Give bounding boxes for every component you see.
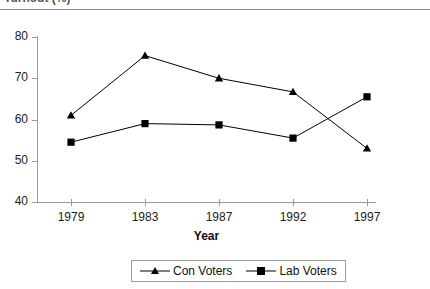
data-point-marker xyxy=(141,120,148,127)
data-point-marker xyxy=(67,111,75,118)
triangle-marker-icon xyxy=(140,265,170,277)
data-point-marker xyxy=(215,121,222,128)
x-axis-line xyxy=(37,202,376,203)
series-con-voters xyxy=(67,51,371,151)
x-tick-mark xyxy=(71,199,72,206)
x-axis-title: Year xyxy=(37,229,376,243)
y-tick-mark xyxy=(32,78,37,79)
legend-item-con-voters[interactable]: Con Voters xyxy=(140,264,232,278)
legend-label: Lab Voters xyxy=(279,264,336,278)
y-tick-mark xyxy=(32,161,37,162)
data-point-marker xyxy=(141,51,149,58)
y-tick-mark xyxy=(32,120,37,121)
series-line xyxy=(71,97,367,142)
data-point-marker xyxy=(67,139,74,146)
square-marker-icon xyxy=(246,265,276,277)
x-tick-label: 1979 xyxy=(41,210,101,224)
series-line xyxy=(71,56,367,149)
y-tick-label: 40 xyxy=(15,194,28,208)
data-point-marker xyxy=(289,135,296,142)
chart-legend: Con Voters Lab Voters xyxy=(131,260,346,282)
x-tick-mark xyxy=(145,199,146,206)
legend-label: Con Voters xyxy=(173,264,232,278)
x-tick-mark xyxy=(293,199,294,206)
y-tick-label: 70 xyxy=(15,70,28,84)
y-tick-mark xyxy=(32,37,37,38)
data-point-marker xyxy=(363,93,370,100)
y-tick-mark xyxy=(32,202,37,203)
y-tick-label: 50 xyxy=(15,153,28,167)
x-tick-label: 1997 xyxy=(337,210,397,224)
header-divider xyxy=(0,9,430,10)
chart-title-text: Turnout (%) xyxy=(4,0,70,5)
x-tick-label: 1987 xyxy=(189,210,249,224)
legend-item-lab-voters[interactable]: Lab Voters xyxy=(246,264,336,278)
series-lab-voters xyxy=(67,93,370,146)
y-tick-label: 80 xyxy=(15,29,28,43)
x-tick-mark xyxy=(367,199,368,206)
data-point-marker xyxy=(289,88,297,95)
y-tick-label: 60 xyxy=(15,112,28,126)
x-tick-mark xyxy=(219,199,220,206)
data-point-marker xyxy=(215,74,223,82)
y-axis-line xyxy=(37,36,38,203)
chart-plot-area xyxy=(0,0,430,289)
data-point-marker xyxy=(363,144,371,151)
chart-title-clipped: Turnout (%) xyxy=(0,0,430,9)
x-tick-label: 1992 xyxy=(263,210,323,224)
x-tick-label: 1983 xyxy=(115,210,175,224)
